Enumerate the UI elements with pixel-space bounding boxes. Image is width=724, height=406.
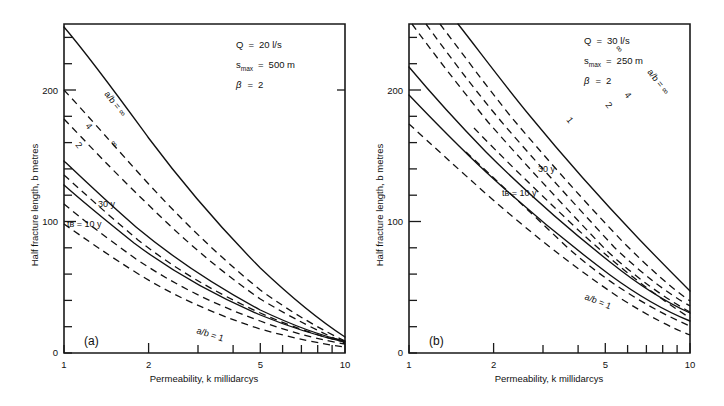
plot-frame xyxy=(64,24,345,353)
curve-ab-infinity xyxy=(458,24,690,291)
label-ab-4: 4 xyxy=(83,121,94,131)
curve-label-group: a/b = ∞ 4 2 ∞ 30 y tʙ = 10 y a/b = 1 xyxy=(67,89,225,343)
panel-a-svg: 0 100 200 1 2 5 10 Permeability, k mi xyxy=(0,0,362,406)
x-ticklabel-1: 1 xyxy=(61,359,66,370)
label-tb-30y: 30 y xyxy=(98,199,116,209)
curve-ab-2 xyxy=(426,24,690,306)
y-ticklabel-200: 200 xyxy=(42,85,58,96)
label-ab-1: a/b = 1 xyxy=(583,292,613,312)
chart-panel-a: 0 100 200 1 2 5 10 Permeability, k mi xyxy=(0,0,362,406)
annotation-block: Q=20 l/s smax=500 m β=2 xyxy=(235,39,295,90)
annotation-block: Q=30 l/s smax=250 m β=2 xyxy=(583,35,643,86)
curve-ab-infinity xyxy=(64,27,345,337)
x-axis-title: Permeability, k millidarcys xyxy=(150,373,259,384)
chart-panel-b: 0 100 200 1 2 5 10 Permeability, k milli… xyxy=(362,0,724,406)
panel-identifier-a: (a) xyxy=(84,334,99,348)
label-infinity-lower: ∞ xyxy=(108,138,120,149)
label-ab-1: a/b = 1 xyxy=(195,325,225,343)
curve-ab-4 xyxy=(64,90,345,341)
x-ticklabel-2: 2 xyxy=(491,359,496,370)
y-ticklabel-100: 100 xyxy=(387,216,403,227)
x-ticklabel-10: 10 xyxy=(340,359,351,370)
curve-ab-1-lower xyxy=(409,124,690,335)
curve-tb-10y-infinity xyxy=(409,95,690,321)
label-ab-infinity-top: a/b = ∞ xyxy=(645,67,671,96)
y-ticklabel-200: 200 xyxy=(387,85,403,96)
curve-tb-10y-ab1 xyxy=(466,152,690,326)
label-ab-4: 4 xyxy=(622,90,633,100)
annotation-smax: smax=500 m xyxy=(236,59,295,72)
curve-group xyxy=(64,27,345,347)
x-ticklabel-1: 1 xyxy=(406,359,411,370)
panel-b-svg: 0 100 200 1 2 5 10 Permeability, k milli… xyxy=(362,0,724,406)
x-ticklabel-5: 5 xyxy=(603,359,608,370)
curve-tb-30y-ab1 xyxy=(474,128,690,318)
label-ab-1-upper: 1 xyxy=(564,115,575,125)
curve-tb-30y-infinity xyxy=(64,161,345,341)
annotation-beta: β=2 xyxy=(583,75,611,86)
x-tick-marks xyxy=(64,343,345,353)
label-tb-10y: tʙ = 10 y xyxy=(502,188,537,198)
y-ticklabel-0: 0 xyxy=(398,347,403,358)
label-tb-30y: 30 y xyxy=(538,164,556,174)
y-ticklabel-0: 0 xyxy=(53,347,58,358)
annotation-discharge: Q=20 l/s xyxy=(236,39,282,50)
x-axis-title: Permeability, k millidarcys xyxy=(495,373,604,384)
x-ticklabel-5: 5 xyxy=(258,359,263,370)
x-ticklabel-10: 10 xyxy=(685,359,696,370)
label-ab-2: 2 xyxy=(73,140,84,150)
figure-root: 0 100 200 1 2 5 10 Permeability, k mi xyxy=(0,0,724,406)
annotation-beta: β=2 xyxy=(235,79,263,90)
annotation-smax: smax=250 m xyxy=(584,55,643,68)
y-tick-marks xyxy=(409,37,421,353)
y-axis-title: Half fracture length, b metres xyxy=(374,144,385,267)
panel-identifier-b: (b) xyxy=(429,334,444,348)
y-ticklabel-100: 100 xyxy=(42,216,58,227)
label-tb-10y: tʙ = 10 y xyxy=(67,219,102,229)
x-tick-marks xyxy=(409,343,690,353)
y-axis-title: Half fracture length, b metres xyxy=(29,144,40,267)
curve-ab-2 xyxy=(64,119,345,343)
x-ticklabel-2: 2 xyxy=(146,359,151,370)
label-ab-2: 2 xyxy=(603,100,614,110)
